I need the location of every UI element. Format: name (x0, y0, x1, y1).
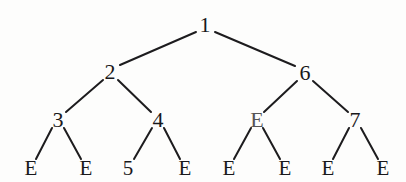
tree-node-n3: 3 (53, 109, 64, 131)
tree-edge (361, 128, 378, 159)
tree-node-l7: E (322, 158, 335, 179)
tree-node-l4: E (179, 158, 192, 179)
tree-edge (215, 32, 295, 66)
tree-node-n7: 7 (350, 109, 361, 131)
edge-group (36, 32, 378, 159)
tree-edge (36, 128, 52, 159)
tree-node-n4: 4 (153, 109, 164, 131)
binary-tree-diagram: 12634E7EE5EEEEE (0, 0, 406, 182)
tree-node-n6: 6 (300, 62, 311, 84)
tree-edge (333, 128, 349, 159)
tree-node-l1: E (25, 158, 38, 179)
tree-edge (313, 81, 348, 112)
tree-node-l3: 5 (123, 158, 134, 179)
tree-node-nE1: E (250, 109, 263, 131)
tree-node-l8: E (377, 158, 390, 179)
tree-edge (164, 128, 180, 159)
tree-node-n2: 2 (105, 61, 116, 83)
tree-node-n1: 1 (200, 14, 211, 36)
tree-edge (118, 80, 151, 112)
tree-edge (64, 128, 81, 159)
tree-node-l5: E (223, 158, 236, 179)
tree-edge (134, 128, 152, 159)
tree-edge (66, 80, 103, 112)
tree-edge (120, 32, 196, 65)
tree-edge (234, 128, 251, 159)
tree-node-l2: E (80, 158, 93, 179)
tree-node-l6: E (279, 158, 292, 179)
tree-edge (264, 81, 297, 112)
tree-edge (263, 128, 280, 159)
